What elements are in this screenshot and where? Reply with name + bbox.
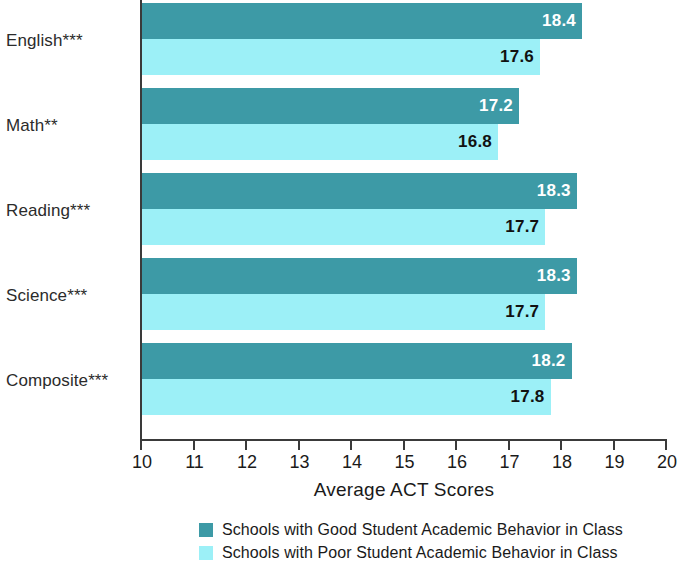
x-axis-title: Average ACT Scores bbox=[140, 479, 668, 501]
category-label: Science*** bbox=[6, 286, 132, 306]
x-tick-label: 13 bbox=[280, 452, 320, 473]
bar-good: 18.2 bbox=[141, 343, 572, 379]
x-tick-label: 17 bbox=[490, 452, 530, 473]
bar-value-label: 17.7 bbox=[505, 217, 539, 237]
plot-area: English***Math**Reading***Science***Comp… bbox=[0, 0, 692, 440]
bar-good: 18.4 bbox=[141, 3, 582, 39]
bar-good: 18.3 bbox=[141, 258, 577, 294]
legend-item[interactable]: Schools with Poor Student Academic Behav… bbox=[199, 542, 618, 564]
bar-group: 18.317.7 bbox=[141, 258, 671, 330]
bar-value-label: 17.7 bbox=[505, 302, 539, 322]
x-tick-label: 10 bbox=[122, 452, 162, 473]
x-tick-label: 19 bbox=[595, 452, 635, 473]
legend-swatch-icon bbox=[199, 523, 213, 537]
x-tick bbox=[665, 441, 667, 450]
legend-item[interactable]: Schools with Good Student Academic Behav… bbox=[199, 519, 623, 541]
bar-group: 18.417.6 bbox=[141, 3, 671, 75]
bar-poor: 16.8 bbox=[141, 124, 498, 160]
category-label: Composite*** bbox=[6, 371, 132, 391]
act-scores-bar-chart: English***Math**Reading***Science***Comp… bbox=[0, 0, 692, 576]
bar-value-label: 18.2 bbox=[532, 351, 566, 371]
bar-poor: 17.7 bbox=[141, 209, 545, 245]
x-tick bbox=[560, 441, 562, 450]
x-tick bbox=[350, 441, 352, 450]
x-tick-label: 11 bbox=[175, 452, 215, 473]
bar-group: 18.317.7 bbox=[141, 173, 671, 245]
legend-label: Schools with Poor Student Academic Behav… bbox=[222, 544, 618, 562]
bar-group: 17.216.8 bbox=[141, 88, 671, 160]
legend-label: Schools with Good Student Academic Behav… bbox=[222, 521, 623, 539]
legend-swatch-icon bbox=[199, 546, 213, 560]
bar-value-label: 17.8 bbox=[511, 387, 545, 407]
category-label: Reading*** bbox=[6, 201, 132, 221]
bar-group: 18.217.8 bbox=[141, 343, 671, 415]
category-label: Math** bbox=[6, 116, 132, 136]
bar-value-label: 18.3 bbox=[537, 181, 571, 201]
x-tick bbox=[245, 441, 247, 450]
bar-value-label: 17.6 bbox=[500, 47, 534, 67]
x-tick bbox=[140, 441, 142, 450]
bar-good: 18.3 bbox=[141, 173, 577, 209]
x-tick-label: 15 bbox=[385, 452, 425, 473]
x-tick bbox=[613, 441, 615, 450]
bar-value-label: 18.4 bbox=[542, 11, 576, 31]
x-tick bbox=[455, 441, 457, 450]
x-tick bbox=[508, 441, 510, 450]
bar-poor: 17.8 bbox=[141, 379, 551, 415]
x-tick bbox=[298, 441, 300, 450]
x-tick-label: 16 bbox=[437, 452, 477, 473]
x-tick bbox=[403, 441, 405, 450]
x-tick-label: 20 bbox=[647, 452, 687, 473]
bar-good: 17.2 bbox=[141, 88, 519, 124]
bar-poor: 17.6 bbox=[141, 39, 540, 75]
category-label: English*** bbox=[6, 31, 132, 51]
x-tick-label: 18 bbox=[542, 452, 582, 473]
x-tick-label: 12 bbox=[227, 452, 267, 473]
x-tick-label: 14 bbox=[332, 452, 372, 473]
x-tick bbox=[193, 441, 195, 450]
bar-poor: 17.7 bbox=[141, 294, 545, 330]
bar-value-label: 18.3 bbox=[537, 266, 571, 286]
bar-value-label: 17.2 bbox=[479, 96, 513, 116]
y-axis-line bbox=[140, 0, 142, 440]
bar-value-label: 16.8 bbox=[458, 132, 492, 152]
